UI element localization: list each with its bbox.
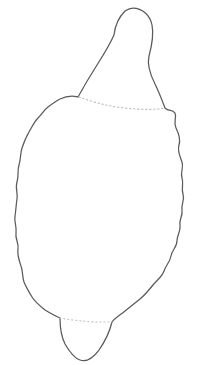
specimen-drawing: Specimen outline drawing: [0, 0, 199, 365]
figure-canvas: Specimen outline drawing: [0, 0, 199, 365]
body-outline-path: [15, 8, 184, 361]
